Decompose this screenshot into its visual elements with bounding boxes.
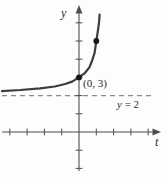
y-axis-label: y xyxy=(61,7,66,19)
curve-point-dot xyxy=(76,75,82,81)
curve-point-dot xyxy=(93,38,99,44)
asymptote-label-value: = 2 xyxy=(122,98,139,110)
exponential-function-figure: y t (0, 3) y = 2 xyxy=(0,0,167,178)
y-axis-arrow-icon xyxy=(76,5,83,14)
asymptote-label: y = 2 xyxy=(117,99,139,110)
point-label: (0, 3) xyxy=(83,78,107,89)
plot-svg xyxy=(0,0,167,178)
t-axis-label: t xyxy=(155,136,158,148)
